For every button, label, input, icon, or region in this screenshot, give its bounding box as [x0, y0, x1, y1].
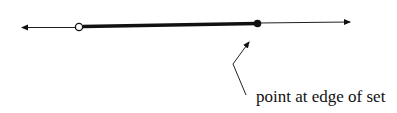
- closed-endpoint-dot: [254, 20, 262, 28]
- set-interval-segment: [83, 24, 257, 27]
- open-endpoint-circle: [75, 23, 82, 30]
- callout-label: point at edge of set: [256, 87, 385, 107]
- callout-pointer-lower: [233, 64, 246, 95]
- callout-pointer-upper: [233, 42, 249, 64]
- number-line-axis-right: [257, 22, 350, 23]
